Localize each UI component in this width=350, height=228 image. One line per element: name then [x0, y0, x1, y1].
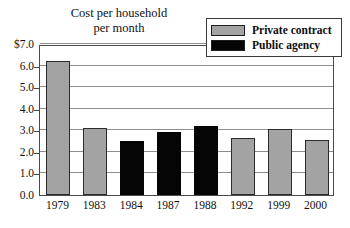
- legend-item-private-contract: Private contract: [211, 23, 337, 37]
- bar-slot-1979: [46, 46, 70, 195]
- y-tick-label-4: 4.0: [20, 104, 34, 116]
- chart-legend: Private contract Public agency: [206, 18, 342, 57]
- bar-slot-1983: [83, 46, 107, 195]
- bar-slot-1984: [120, 46, 144, 195]
- bar-1983: [83, 128, 107, 195]
- bar-chart: Cost per household per month $7.06.05.04…: [0, 0, 350, 228]
- bar-slot-2000: [305, 46, 329, 195]
- y-tick-label-7: $7.0: [14, 39, 34, 51]
- x-tick-label-2000: 2000: [304, 198, 327, 212]
- legend-label-private-contract: Private contract: [252, 24, 332, 36]
- bar-1979: [46, 61, 70, 195]
- x-tick-label-1992: 1992: [230, 198, 253, 212]
- x-axis: 19791983198419871988199219992000: [39, 198, 334, 218]
- bar-1988: [194, 126, 218, 195]
- bar-slot-1999: [268, 46, 292, 195]
- bars-layer: [40, 46, 333, 195]
- y-tick-label-3: 3.0: [20, 126, 34, 138]
- bar-slot-1992: [231, 46, 255, 195]
- x-tick-label-1979: 1979: [46, 198, 69, 212]
- y-tick-label-0: 0.0: [20, 190, 34, 202]
- plot-area: [39, 45, 334, 196]
- bar-1992: [231, 138, 255, 195]
- y-tick-label-6: 6.0: [20, 61, 34, 73]
- chart-title-line-2: per month: [34, 21, 204, 36]
- bar-1999: [268, 129, 292, 195]
- x-tick-label-1984: 1984: [120, 198, 143, 212]
- y-tick-label-2: 2.0: [20, 147, 34, 159]
- x-tick-label-1987: 1987: [157, 198, 180, 212]
- y-axis: $7.06.05.04.03.02.01.00.0: [0, 45, 36, 196]
- bar-1987: [157, 132, 181, 195]
- bar-slot-1987: [157, 46, 181, 195]
- x-tick-label-1999: 1999: [267, 198, 290, 212]
- legend-swatch-private-contract-icon: [211, 25, 245, 36]
- legend-item-public-agency: Public agency: [211, 38, 337, 52]
- chart-title: Cost per household per month: [34, 6, 204, 36]
- legend-swatch-public-agency-icon: [211, 40, 245, 51]
- bar-slot-1988: [194, 46, 218, 195]
- x-tick-label-1983: 1983: [83, 198, 106, 212]
- y-tick-label-1: 1.0: [20, 169, 34, 181]
- bar-2000: [305, 140, 329, 195]
- chart-title-line-1: Cost per household: [34, 6, 204, 21]
- legend-label-public-agency: Public agency: [252, 39, 320, 51]
- y-tick-label-5: 5.0: [20, 82, 34, 94]
- bar-1984: [120, 141, 144, 195]
- x-tick-label-1988: 1988: [193, 198, 216, 212]
